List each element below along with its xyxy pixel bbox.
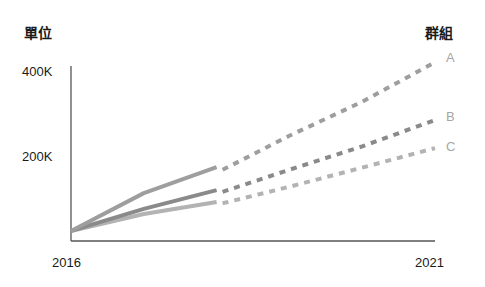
series-label-a: A (446, 50, 455, 65)
series-layer (71, 62, 435, 231)
series-label-c: C (446, 139, 455, 154)
series-a-projected-line (223, 62, 435, 170)
line-chart (0, 0, 485, 287)
series-b-projected-line (223, 120, 435, 192)
series-a-actual-line (71, 167, 217, 231)
series-c-actual-line (71, 202, 217, 231)
series-label-b: B (446, 109, 455, 124)
series-b-actual-line (71, 190, 217, 231)
